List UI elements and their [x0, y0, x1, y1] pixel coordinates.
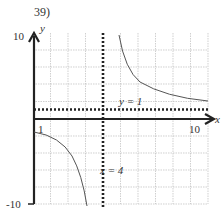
curve-right-branch: [119, 35, 208, 101]
problem-number: 39): [34, 6, 50, 18]
horizontal-asymptote-label: y = 1: [119, 96, 142, 107]
x-axis-label: x: [215, 114, 220, 125]
graph: [0, 0, 224, 218]
y-tick-bottom: -10: [6, 199, 21, 210]
y-axis-label: y: [40, 23, 45, 34]
curve-left-branch: [34, 132, 87, 206]
vertical-asymptote-label: x = 4: [100, 165, 123, 176]
y-tick-top: 10: [13, 31, 24, 42]
x-tick-ten: 10: [189, 124, 200, 135]
x-tick-one: 1: [38, 124, 44, 135]
